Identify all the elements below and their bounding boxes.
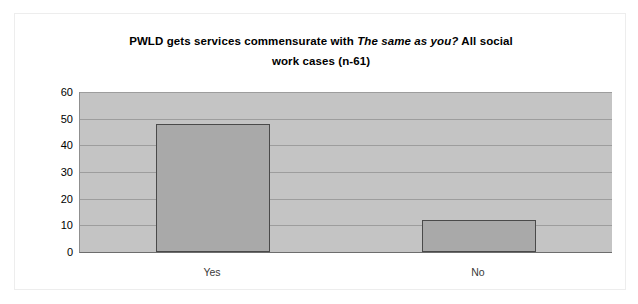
y-axis-tick-label: 40 xyxy=(61,140,73,151)
bar-yes xyxy=(156,124,270,252)
chart-frame: PWLD gets services commensurate with The… xyxy=(14,13,626,290)
y-axis-tick-label: 10 xyxy=(61,220,73,231)
plot-area xyxy=(79,92,612,253)
plot-wrapper: 0102030405060 YesNo xyxy=(49,92,612,265)
chart-title-segment-italic: The same as you? xyxy=(357,35,458,47)
x-axis-tick-label: Yes xyxy=(203,266,220,278)
gridline xyxy=(80,92,612,93)
y-axis-tick-label: 60 xyxy=(61,87,73,98)
y-axis-tick-label: 0 xyxy=(67,247,73,258)
x-axis-tick-label: No xyxy=(471,266,484,278)
x-axis: YesNo xyxy=(79,258,612,278)
chart-title-segment-plain-leading: PWLD gets services commensurate with xyxy=(129,35,357,47)
y-axis: 0102030405060 xyxy=(49,92,77,253)
chart-title-segment-plain-trailing: All social xyxy=(458,35,512,47)
y-axis-tick-label: 50 xyxy=(61,113,73,124)
gridline xyxy=(80,119,612,120)
chart-title: PWLD gets services commensurate with The… xyxy=(15,31,627,71)
y-axis-tick-label: 20 xyxy=(61,193,73,204)
chart-title-line-2: work cases (n-61) xyxy=(272,55,370,67)
chart-title-line-1: PWLD gets services commensurate with The… xyxy=(129,35,513,47)
y-axis-tick-label: 30 xyxy=(61,167,73,178)
bar-no xyxy=(422,220,536,252)
